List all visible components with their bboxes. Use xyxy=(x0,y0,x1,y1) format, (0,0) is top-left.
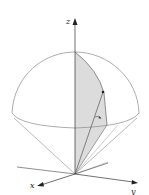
x-axis-arrowhead xyxy=(37,182,44,187)
solid-diagram: z x y xyxy=(0,0,149,195)
cone-left-edge xyxy=(14,118,75,174)
y-axis-label: y xyxy=(130,187,136,195)
y-axis-back xyxy=(17,167,75,174)
x-axis xyxy=(41,174,75,185)
z-axis-label: z xyxy=(65,17,71,26)
y-axis-arrowhead xyxy=(132,180,139,185)
y-axis xyxy=(75,174,133,182)
x-axis-label: x xyxy=(30,181,35,190)
surface-point xyxy=(102,91,105,94)
z-axis-arrowhead xyxy=(73,18,78,25)
